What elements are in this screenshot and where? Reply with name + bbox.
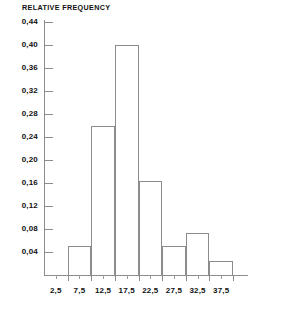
bar-12,5 <box>91 126 115 276</box>
y-tick-6 <box>45 114 53 115</box>
y-tick-label-3: 0,16 <box>12 178 38 187</box>
bar-22,5 <box>139 181 163 275</box>
plot-area: 0,040,080,120,160,200,240,280,320,360,40… <box>0 0 282 310</box>
x-tick-minor-1 <box>79 275 80 279</box>
bar-27,5 <box>162 246 186 275</box>
x-tick-minor-0 <box>56 275 57 279</box>
y-tick-label-0: 0,04 <box>12 247 38 256</box>
y-tick-label-1: 0,08 <box>12 224 38 233</box>
relative-frequency-histogram: RELATIVE FREQUENCY 0,040,080,120,160,200… <box>0 0 282 310</box>
y-tick-label-2: 0,12 <box>12 201 38 210</box>
y-tick-7 <box>45 91 53 92</box>
y-tick-2 <box>45 206 53 207</box>
y-tick-8 <box>45 68 53 69</box>
x-tick-major-2 <box>91 275 92 281</box>
y-tick-label-8: 0,36 <box>12 63 38 72</box>
y-tick-9 <box>45 45 53 46</box>
x-tick-major-3 <box>115 275 116 281</box>
bar-7,5 <box>68 246 92 275</box>
y-tick-label-9: 0,40 <box>12 40 38 49</box>
y-tick-5 <box>45 137 53 138</box>
x-tick-major-6 <box>186 275 187 281</box>
x-tick-minor-5 <box>174 275 175 279</box>
x-tick-minor-2 <box>103 275 104 279</box>
y-tick-label-4: 0,20 <box>12 155 38 164</box>
x-tick-major-4 <box>139 275 140 281</box>
y-tick-3 <box>45 183 53 184</box>
bar-17,5 <box>115 45 139 275</box>
x-tick-minor-4 <box>150 275 151 279</box>
x-tick-major-5 <box>162 275 163 281</box>
y-tick-label-7: 0,32 <box>12 86 38 95</box>
y-tick-10 <box>45 22 53 23</box>
y-tick-0 <box>45 252 53 253</box>
y-axis-line <box>44 20 45 276</box>
x-tick-major-8 <box>233 275 234 281</box>
y-tick-label-6: 0,28 <box>12 109 38 118</box>
x-tick-major-7 <box>209 275 210 281</box>
x-tick-minor-7 <box>221 275 222 279</box>
bar-37,5 <box>209 261 233 275</box>
x-tick-label-7: 37,5 <box>206 286 236 295</box>
y-tick-1 <box>45 229 53 230</box>
x-tick-minor-3 <box>127 275 128 279</box>
y-tick-label-10: 0,44 <box>12 17 38 26</box>
x-tick-major-1 <box>68 275 69 281</box>
y-tick-4 <box>45 160 53 161</box>
bar-32,5 <box>186 233 210 275</box>
y-tick-label-5: 0,24 <box>12 132 38 141</box>
x-tick-minor-6 <box>198 275 199 279</box>
x-axis-line <box>44 275 248 276</box>
